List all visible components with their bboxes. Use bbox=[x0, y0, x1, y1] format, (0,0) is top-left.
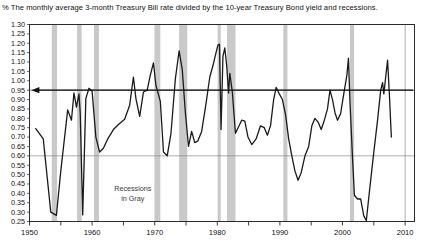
level-arrow-head bbox=[31, 87, 39, 93]
plot-frame bbox=[30, 25, 415, 222]
x-axis-tick-label: 1950 bbox=[15, 228, 45, 237]
y-axis-tick-label: 0.80 bbox=[1, 114, 25, 123]
data-line-tbill-tbond-ratio bbox=[36, 44, 392, 220]
y-axis-tick-label: 1.10 bbox=[1, 57, 25, 66]
chart-figure: % The monthly average 3-month Treasury B… bbox=[0, 0, 425, 248]
y-axis-tick-label: 0.70 bbox=[1, 132, 25, 141]
recession-note-line2: in Gray bbox=[98, 194, 168, 204]
x-axis-tick-label: 1970 bbox=[140, 228, 170, 237]
y-axis-tick-label: 1.30 bbox=[1, 20, 25, 29]
x-axis-tick-label: 2010 bbox=[390, 228, 420, 237]
y-axis-tick-label: 0.40 bbox=[1, 189, 25, 198]
plot-area bbox=[0, 0, 425, 248]
y-axis-tick-label: 0.95 bbox=[1, 86, 25, 95]
y-axis-tick-label: 0.85 bbox=[1, 104, 25, 113]
y-axis-tick-label: 1.20 bbox=[1, 39, 25, 48]
recession-band bbox=[52, 25, 57, 222]
y-axis-tick-label: 0.30 bbox=[1, 208, 25, 217]
recession-note: Recessions in Gray bbox=[98, 184, 168, 203]
x-axis-tick-label: 1990 bbox=[265, 228, 295, 237]
x-axis-tick-label: 1980 bbox=[202, 228, 232, 237]
y-axis-tick-label: 1.15 bbox=[1, 48, 25, 57]
y-axis-tick-label: 0.55 bbox=[1, 161, 25, 170]
y-axis-tick-label: 1.25 bbox=[1, 29, 25, 38]
recession-note-line1: Recessions bbox=[98, 184, 168, 194]
y-axis-tick-label: 0.25 bbox=[1, 217, 25, 226]
y-axis-tick-label: 0.65 bbox=[1, 142, 25, 151]
gridlines bbox=[30, 25, 415, 222]
x-axis-tick-label: 1960 bbox=[77, 228, 107, 237]
y-axis-tick-label: 1.05 bbox=[1, 67, 25, 76]
y-axis-tick-label: 0.50 bbox=[1, 170, 25, 179]
y-axis-tick-label: 1.00 bbox=[1, 76, 25, 85]
y-axis-tick-label: 0.45 bbox=[1, 179, 25, 188]
y-axis-tick-label: 0.60 bbox=[1, 151, 25, 160]
y-axis-tick-label: 0.35 bbox=[1, 198, 25, 207]
y-axis-tick-label: 0.75 bbox=[1, 123, 25, 132]
x-axis-tick-label: 2000 bbox=[328, 228, 358, 237]
y-axis-tick-label: 0.90 bbox=[1, 95, 25, 104]
